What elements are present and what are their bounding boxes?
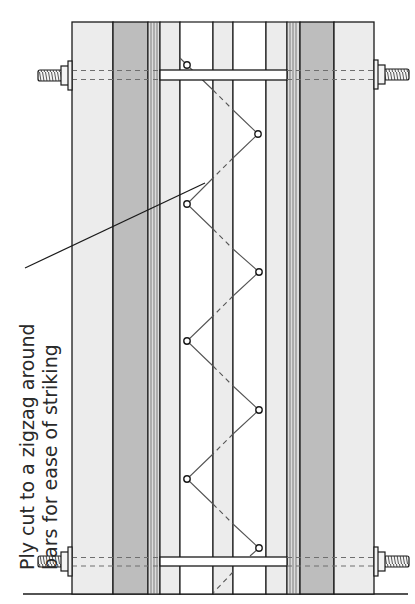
gap-2 <box>233 22 266 594</box>
dark-bearer-right <box>300 22 334 594</box>
inner-strip-1 <box>160 22 180 594</box>
nut-bolt-bottom-right <box>374 547 409 576</box>
inner-strip-2 <box>213 22 233 594</box>
gap-1 <box>180 22 213 594</box>
formwork-diagram: Ply cut to a zigzag around bars for ease… <box>0 0 415 604</box>
nut-bolt-top-left <box>38 61 72 90</box>
annotation-line-1: Ply cut to a zigzag around <box>16 323 38 570</box>
annotation: Ply cut to a zigzag around bars for ease… <box>16 323 61 570</box>
laminated-ply-left <box>148 22 160 594</box>
nut-bolt-top-right <box>374 60 409 89</box>
outer-panel-left <box>72 22 113 594</box>
annotation-line-2: bars for ease of striking <box>39 344 61 570</box>
laminated-ply-right <box>287 22 300 594</box>
inner-strip-3 <box>266 22 287 594</box>
dark-bearer-left <box>113 22 148 594</box>
outer-panel-right <box>334 22 374 594</box>
